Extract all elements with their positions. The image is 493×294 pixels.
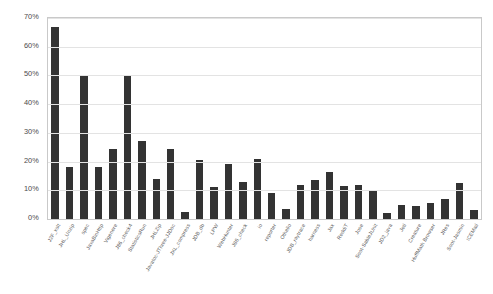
y-tick-label: 30% [24, 128, 39, 135]
gridline [48, 190, 481, 191]
bar [124, 75, 132, 219]
gridline [48, 104, 481, 105]
y-tick-label: 70% [24, 13, 39, 20]
bars-layer [48, 18, 481, 219]
y-tick-label: 50% [24, 71, 39, 78]
gridline [48, 18, 481, 19]
y-tick-label: 0% [28, 214, 39, 221]
bar [268, 193, 276, 219]
bar [369, 190, 377, 219]
bar [95, 167, 103, 219]
plot-area [47, 17, 482, 220]
gridline [48, 133, 481, 134]
x-tick-label: io [259, 219, 266, 225]
bar-chart: 0%10%20%30%40%50%60%70% J2F_xsltJHL_Unzi… [0, 0, 493, 294]
y-axis: 0%10%20%30%40%50%60%70% [0, 17, 44, 220]
x-axis: J2F_xsltJHL_UnzipspecJavaBinHttpVigenere… [47, 221, 482, 294]
y-tick-label: 40% [24, 99, 39, 106]
y-tick-label: 60% [24, 42, 39, 49]
gridline [48, 162, 481, 163]
bar [225, 164, 233, 219]
gridline [48, 75, 481, 76]
gridline [48, 47, 481, 48]
bar [412, 206, 420, 219]
y-tick-label: 20% [24, 157, 39, 164]
bar [80, 75, 88, 219]
y-tick-label: 10% [24, 186, 39, 193]
